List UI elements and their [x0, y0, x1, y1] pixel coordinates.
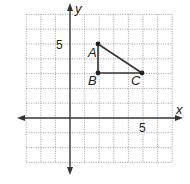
- y-axis-label: y: [74, 1, 83, 16]
- grid: [26, 14, 172, 162]
- y-tick-label-5: 5: [56, 38, 63, 52]
- coordinate-plane: y x 5 5 A B C: [0, 0, 190, 184]
- x-axis-label: x: [175, 102, 183, 117]
- point-c-label: C: [131, 73, 141, 88]
- x-tick-label-5: 5: [139, 121, 146, 135]
- y-axis-arrow-down-icon: [67, 167, 73, 175]
- x-axis-arrow-left-icon: [17, 115, 25, 121]
- point-a-label: A: [87, 45, 97, 60]
- point-b-label: B: [88, 73, 97, 88]
- axes: [17, 3, 183, 175]
- y-axis-arrow-up-icon: [67, 3, 73, 11]
